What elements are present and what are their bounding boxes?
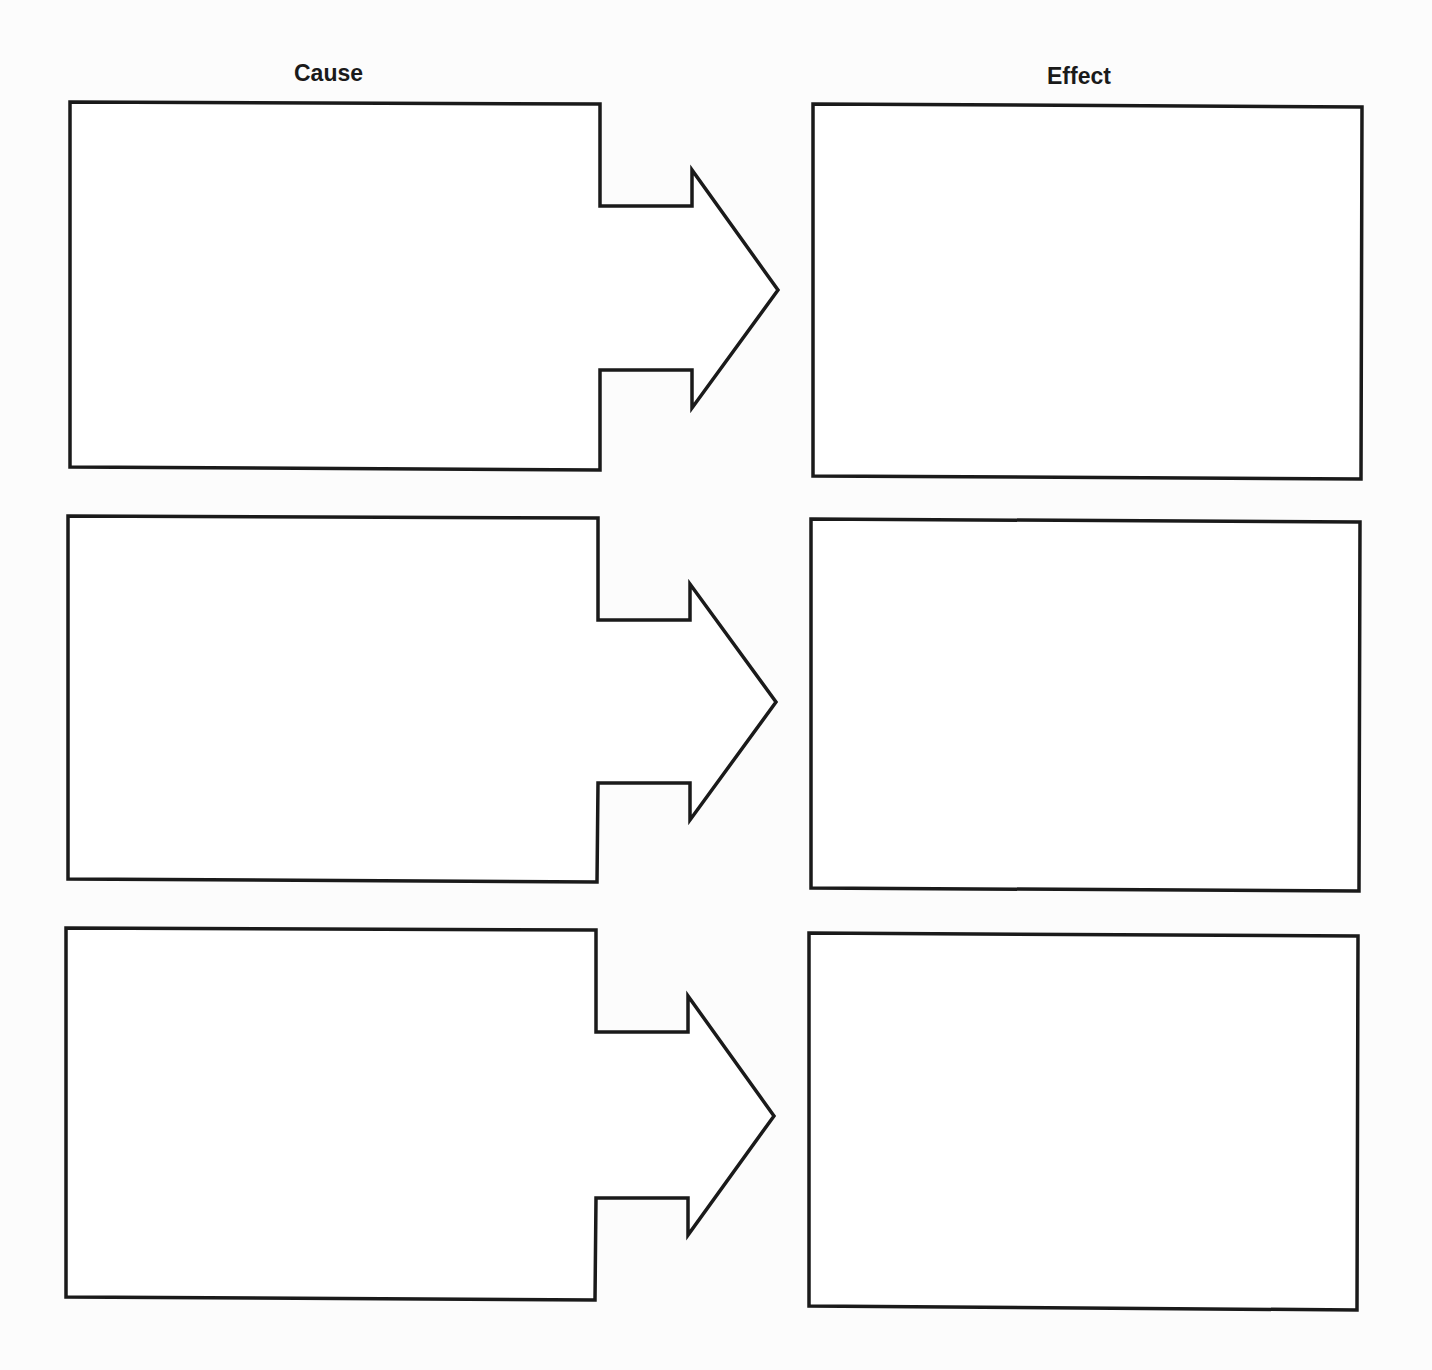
effect-box-1[interactable] (813, 104, 1362, 479)
cause-box-1[interactable] (70, 102, 778, 470)
effect-box-3[interactable] (809, 933, 1358, 1310)
cause-box-2[interactable] (68, 516, 776, 882)
cause-effect-diagram (0, 0, 1432, 1370)
cause-box-3[interactable] (66, 928, 774, 1300)
effect-box-2[interactable] (811, 519, 1360, 891)
